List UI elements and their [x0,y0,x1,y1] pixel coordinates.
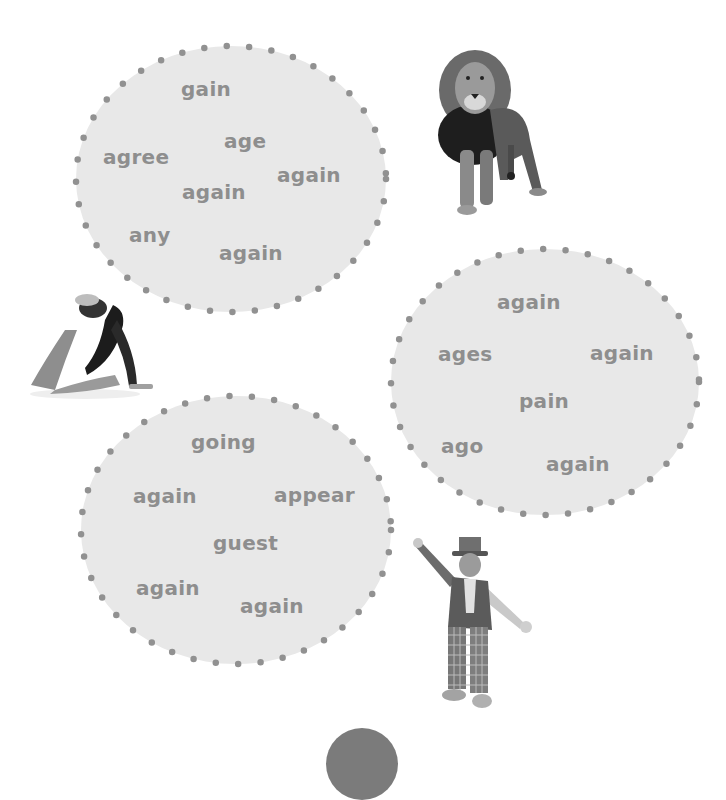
word: appear [274,485,355,505]
word: going [191,432,256,452]
clown-image [412,535,537,710]
gymnast-image [25,290,165,400]
bottom-circle [326,728,398,800]
word: guest [213,533,278,553]
word: again [136,578,200,598]
lion-image [430,30,555,220]
word: again [133,486,197,506]
word: again [240,596,304,616]
